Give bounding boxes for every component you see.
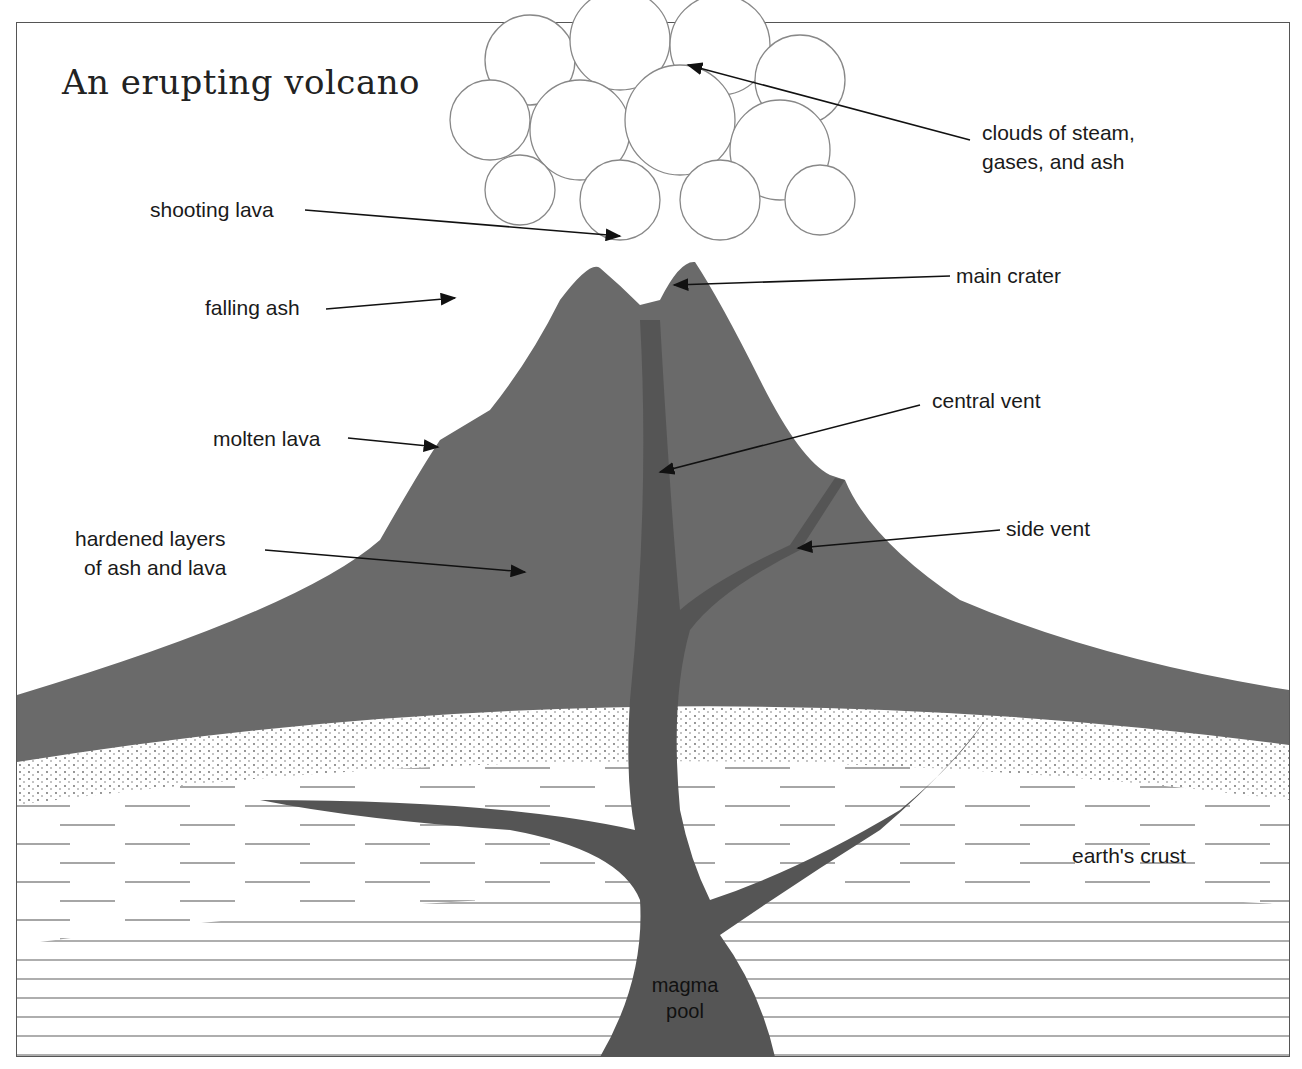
label-hardened-layers: hardened layers of ash and lava xyxy=(75,524,226,582)
label-falling-ash: falling ash xyxy=(205,293,300,322)
label-central-vent: central vent xyxy=(932,386,1041,415)
label-earths-crust: earth's crust xyxy=(1072,841,1186,870)
label-clouds-line1: clouds of steam, xyxy=(982,118,1135,147)
label-magma-pool: magma pool xyxy=(640,972,730,1024)
label-main-crater: main crater xyxy=(956,261,1061,290)
label-shooting-lava: shooting lava xyxy=(150,195,274,224)
label-magma-line2: pool xyxy=(640,998,730,1024)
label-side-vent: side vent xyxy=(1006,514,1090,543)
label-clouds: clouds of steam, gases, and ash xyxy=(982,118,1135,176)
label-molten-lava: molten lava xyxy=(213,424,320,453)
diagram-title: An erupting volcano xyxy=(62,62,420,102)
cloud xyxy=(450,0,855,240)
label-clouds-line2: gases, and ash xyxy=(982,147,1135,176)
label-hardened-line1: hardened layers xyxy=(75,524,226,553)
label-magma-line1: magma xyxy=(640,972,730,998)
label-hardened-line2: of ash and lava xyxy=(75,553,226,582)
